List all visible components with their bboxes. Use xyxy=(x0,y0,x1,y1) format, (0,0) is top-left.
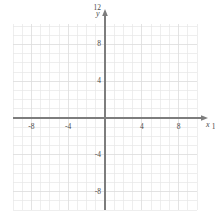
y-axis-arrow-icon xyxy=(102,9,108,16)
y-tick-label: 8 xyxy=(97,41,101,49)
x-tick-label: 4 xyxy=(140,123,144,131)
y-tick-label: -4 xyxy=(95,151,101,159)
grid-and-axes xyxy=(0,0,215,221)
y-tick-label: 4 xyxy=(97,77,101,85)
x-tick-label: -8 xyxy=(28,123,34,131)
x-tick-label: -4 xyxy=(65,123,71,131)
x-axis-label: x xyxy=(206,121,210,129)
x-tick-label: 8 xyxy=(177,123,181,131)
y-tick-label: -8 xyxy=(95,188,101,196)
y-axis-label: y xyxy=(96,10,100,18)
x-tick-label: 12 xyxy=(212,123,215,131)
coordinate-plane-figure: -12-8-44812 1284-4-8-12 y x xyxy=(0,0,215,221)
